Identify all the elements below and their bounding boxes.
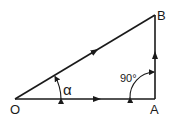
side-ob: [15, 15, 155, 99]
alpha-arc: [55, 77, 61, 100]
point-label-b: B: [157, 9, 166, 22]
triangle-diagram: [0, 0, 172, 119]
angle-label-right: 90°: [120, 73, 137, 84]
point-label-a: A: [150, 103, 159, 116]
angle-label-alpha: α: [63, 82, 72, 97]
point-label-o: O: [10, 103, 20, 116]
